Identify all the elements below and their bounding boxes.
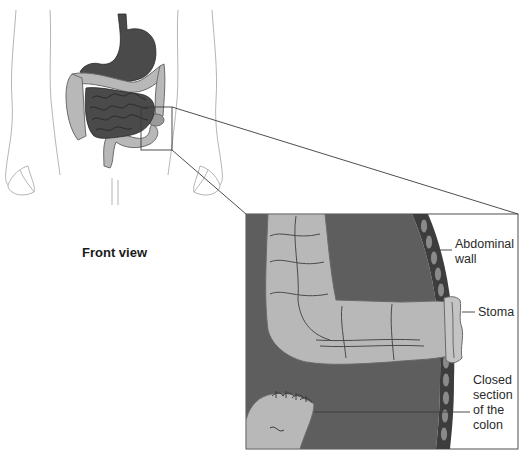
label-line: section xyxy=(473,388,513,403)
small-intestine xyxy=(85,88,154,139)
diagram-stage: Front view Abdominal wall Stoma Closed s… xyxy=(0,0,525,462)
zoom-connector-lines xyxy=(172,107,518,214)
stomach xyxy=(80,14,156,82)
label-line: colon xyxy=(473,418,513,433)
label-stoma: Stoma xyxy=(478,305,514,320)
label-abdominal-wall: Abdominal wall xyxy=(455,237,514,267)
colostomy-illustration xyxy=(0,0,525,462)
label-line: of the xyxy=(473,403,513,418)
label-line: Abdominal xyxy=(455,237,514,252)
label-line: Closed xyxy=(473,373,513,388)
label-line: Stoma xyxy=(478,305,514,320)
label-line: wall xyxy=(455,252,514,267)
front-view-caption: Front view xyxy=(82,245,147,260)
label-closed-section: Closed section of the colon xyxy=(473,373,513,433)
